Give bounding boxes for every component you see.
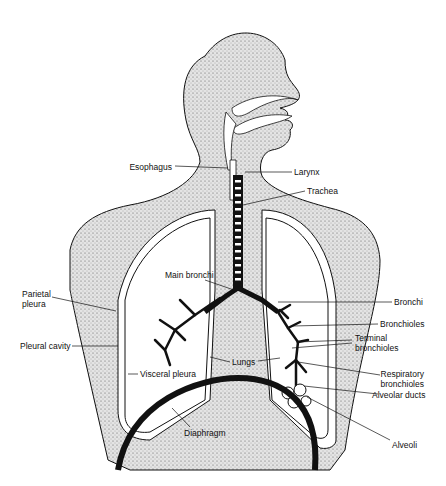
label-pleural-cavity: Pleural cavity (20, 341, 71, 351)
label-trachea: Trachea (307, 186, 338, 196)
label-bronchi: Bronchi (394, 297, 423, 307)
label-esophagus: Esophagus (122, 162, 172, 172)
label-larynx: Larynx (294, 167, 320, 177)
label-parietal-pleura-line2: pleura (22, 299, 46, 309)
label-bronchioles: Bronchioles (380, 319, 424, 329)
label-lungs: Lungs (232, 357, 255, 367)
label-respiratory-bronchioles-line2: bronchioles (360, 379, 424, 389)
label-terminal-bronchioles-line1: Terminal (355, 333, 387, 343)
label-alveoli: Alveoli (392, 440, 417, 450)
label-respiratory-bronchioles-line1: Respiratory (360, 369, 424, 379)
label-diaphragm: Diaphragm (184, 428, 226, 438)
label-main-bronchi: Main bronchi (165, 270, 214, 280)
trachea-rings (235, 180, 241, 281)
label-visceral-pleura: Visceral pleura (140, 369, 196, 379)
respiratory-diagram: Esophagus Larynx Trachea Main bronchi Br… (0, 0, 446, 486)
diagram-illustration (0, 0, 446, 486)
label-parietal-pleura-line1: Parietal (22, 289, 51, 299)
label-alveolar-ducts: Alveolar ducts (372, 390, 425, 400)
label-terminal-bronchioles-line2: bronchioles (355, 343, 398, 353)
